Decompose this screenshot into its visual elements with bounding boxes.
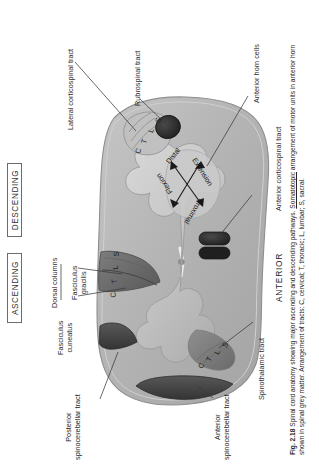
label-anterior-orientation-text: ANTERIOR <box>274 253 284 302</box>
dorsal-letter-c-text: C <box>108 292 118 298</box>
figure-caption-underlined: Somatotopic <box>289 172 296 209</box>
label-lateral-corticospinal-tract: Lateral corticospinal tract <box>66 49 75 130</box>
dorsal-letter-t-text: T <box>110 279 119 284</box>
figure-caption-part1: Spinal cord anatomy showing major ascend… <box>289 209 296 427</box>
label-anterior-orientation: ANTERIOR <box>274 253 284 302</box>
dorsal-letter-c: C <box>108 292 118 298</box>
label-anterior-spinocerebellar-line1: Anterior <box>213 394 222 460</box>
label-anterior-spinocerebellar-tract: Anterior spinocerebellar tract <box>213 394 231 460</box>
label-dorsal-columns: Dorsal columns <box>50 258 59 308</box>
spinal-cord-diagram: Lateral corticospinal tract Rubrospinal … <box>0 0 319 465</box>
label-spinothalamic-tract-text: Spinothalamic tract <box>257 338 266 400</box>
label-spinothalamic-tract: Spinothalamic tract <box>257 338 266 400</box>
label-rubrospinal-tract: Rubrospinal tract <box>133 51 142 106</box>
label-lateral-corticospinal-tract-text: Lateral corticospinal tract <box>66 49 75 130</box>
dorsal-letter-t: T <box>110 279 119 284</box>
figure-caption: Fig. 2.18 Spinal cord anatomy showing ma… <box>289 25 307 455</box>
figure-number: Fig. 2.18 <box>289 429 296 455</box>
dorsal-letter-s: S <box>111 251 120 257</box>
dorsal-letter-s-text: S <box>111 251 120 257</box>
label-anterior-corticospinal-tract-text: Anterior corticospinal tract <box>274 127 283 211</box>
label-fasciculus-gracilis: Fasciculus gracilis <box>70 266 88 300</box>
label-fasciculus-cuneatus-line2: cuneatus <box>65 321 74 355</box>
spinal-cord-illustration <box>0 0 319 465</box>
label-fasciculus-cuneatus: Fasciculus cuneatus <box>56 321 74 355</box>
label-anterior-corticospinal-tract: Anterior corticospinal tract <box>274 127 283 211</box>
label-anterior-horn-cells-text: Anterior horn cells <box>252 44 261 103</box>
label-rubrospinal-tract-text: Rubrospinal tract <box>133 51 142 106</box>
label-fasciculus-cuneatus-line1: Fasciculus <box>56 321 65 355</box>
label-anterior-horn-cells: Anterior horn cells <box>252 44 261 103</box>
label-dorsal-columns-text: Dorsal columns <box>50 258 59 308</box>
label-anterior-spinocerebellar-line2: spinocerebellar tract <box>222 394 231 460</box>
label-fasciculus-gracilis-line1: Fasciculus <box>70 266 79 300</box>
label-posterior-spinocerebellar-tract: Posterior spinocerebellar tract <box>64 394 82 460</box>
label-posterior-spinocerebellar-line1: Posterior <box>64 394 73 460</box>
label-posterior-spinocerebellar-line2: spinocerebellar tract <box>73 394 82 460</box>
leader-lateral-corticospinal <box>75 62 136 131</box>
label-fasciculus-gracilis-line2: gracilis <box>79 266 88 300</box>
